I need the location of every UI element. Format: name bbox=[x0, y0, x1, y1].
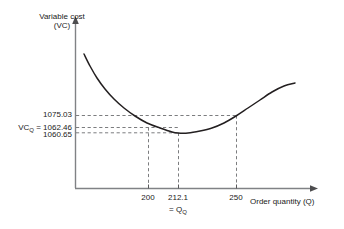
variable-cost-curve bbox=[84, 54, 295, 133]
dashed-guides-vertical bbox=[149, 116, 237, 189]
y-axis-title-line1: Variable cost bbox=[39, 12, 85, 21]
y-axis-title-variable: VC bbox=[56, 21, 67, 30]
variable-cost-chart: Variable cost (VC) 1075.03 VCQ = 1062.46… bbox=[0, 0, 344, 229]
q-equals: = bbox=[169, 205, 174, 214]
y-value-label-high: 1075.03 bbox=[0, 110, 72, 119]
dashed-guides-horizontal bbox=[76, 116, 237, 133]
x-axis-arrow bbox=[310, 185, 318, 192]
x-tick-label-212: 212.1 bbox=[158, 193, 198, 202]
x-axis-title-text: Order quantity ( bbox=[250, 197, 306, 206]
y-value-label-min: 1060.65 bbox=[0, 130, 72, 139]
q-subscript: Q bbox=[182, 209, 187, 215]
y-axis-title-line2: (VC) bbox=[26, 21, 98, 30]
y-axis-title: Variable cost (VC) bbox=[26, 12, 98, 30]
x-axis-title-close: ) bbox=[312, 197, 315, 206]
x-optimum-label: = QQ bbox=[158, 205, 198, 214]
x-axis-title: Order quantity (Q) bbox=[250, 197, 314, 206]
axes-group bbox=[72, 16, 318, 192]
